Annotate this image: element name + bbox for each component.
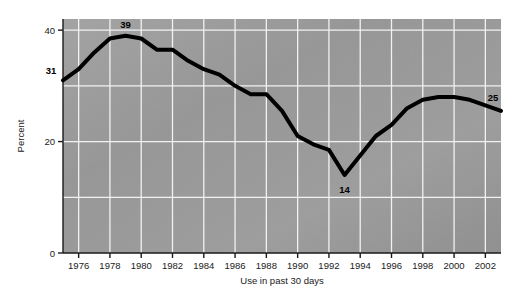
x-tick-label: 1984 [193,260,214,271]
x-tick-label: 1996 [381,260,402,271]
x-axis-title: Use in past 30 days [240,275,324,286]
x-tick-label: 1988 [256,260,277,271]
x-tick-label: 2000 [444,260,465,271]
x-tick-label: 1978 [99,260,120,271]
x-tick-label: 1980 [131,260,152,271]
x-tick-label: 1990 [287,260,308,271]
y-tick-label: 40 [44,25,55,36]
x-tick-label: 1994 [350,260,371,271]
data-point-label: 25 [488,92,499,103]
x-tick-label: 1986 [225,260,246,271]
x-tick-label: 1976 [68,260,89,271]
x-tick-label: 1998 [412,260,433,271]
x-axis-ticks: 1976197819801982198419861988199019921994… [68,253,496,271]
y-axis-title: Percent [15,119,26,152]
y-axis-ticks: 02040 [44,25,63,259]
data-point-label: 14 [339,184,350,195]
data-point-label: 39 [120,19,131,30]
y-tick-label: 0 [50,248,55,259]
line-chart: 02040 1976197819801982198419861988199019… [0,0,514,292]
x-tick-label: 2002 [475,260,496,271]
chart-container: 02040 1976197819801982198419861988199019… [0,0,514,292]
data-point-label: 31 [46,65,57,76]
x-tick-label: 1982 [162,260,183,271]
plot-background-texture [63,19,501,253]
x-tick-label: 1992 [318,260,339,271]
y-tick-label: 20 [44,136,55,147]
